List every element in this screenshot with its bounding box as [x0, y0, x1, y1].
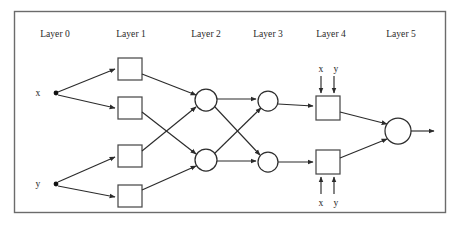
source-dot-y [54, 182, 59, 187]
layer2-circle-2 [195, 149, 217, 171]
diagram-frame [15, 12, 446, 213]
network-diagram-figure: Layer 0 Layer 1 Layer 2 Layer 3 Layer 4 … [0, 0, 462, 238]
layer3-circle-2 [258, 152, 278, 172]
layer3-circle-1 [258, 91, 278, 111]
layer1-box-4 [118, 185, 142, 207]
layer-label-2: Layer 2 [191, 28, 221, 39]
input-label-y: y [36, 178, 41, 189]
layer4-box-bottom [316, 150, 340, 174]
side-input-label-y-bottom: y [334, 197, 339, 208]
layer-label-4: Layer 4 [316, 28, 346, 39]
layer1-box-3 [118, 145, 142, 167]
layer1-box-1 [118, 58, 142, 80]
side-input-label-x-top: x [319, 63, 324, 74]
layer-label-3: Layer 3 [253, 28, 283, 39]
layer1-box-2 [118, 97, 142, 119]
input-label-x: x [36, 87, 41, 98]
layer2-circle-1 [195, 89, 217, 111]
layer-label-1: Layer 1 [116, 28, 146, 39]
side-input-label-x-bottom: x [319, 197, 324, 208]
layer-label-0: Layer 0 [40, 28, 70, 39]
layer5-output-circle [385, 118, 411, 144]
layer-label-5: Layer 5 [386, 28, 416, 39]
side-input-label-y-top: y [334, 63, 339, 74]
layer4-box-top [316, 96, 340, 120]
source-dot-x [54, 91, 59, 96]
